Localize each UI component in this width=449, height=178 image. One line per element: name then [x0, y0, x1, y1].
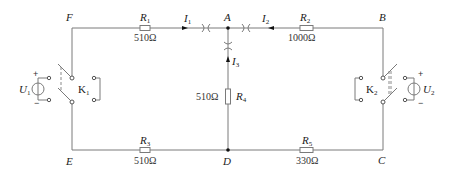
resistor-r2-label: R2	[300, 12, 310, 25]
resistor-r3-label: R3	[140, 135, 150, 148]
source-u1-minus: −	[34, 99, 39, 108]
source-u1-plus: +	[33, 70, 38, 79]
current-i1-label: I1	[184, 13, 191, 26]
switch-k2-label: K2	[366, 84, 377, 97]
resistor-r5	[300, 148, 313, 153]
node-label-c: C	[378, 155, 385, 166]
arrow-i2	[268, 26, 274, 30]
resistor-r5-value: 330Ω	[296, 156, 318, 166]
arrow-i3	[226, 56, 230, 62]
node-label-a: A	[224, 12, 231, 23]
resistor-r2-value: 1000Ω	[288, 33, 315, 43]
source-u2-plus: +	[418, 70, 423, 79]
resistor-r2	[300, 26, 313, 31]
source-u2-label: U2	[423, 84, 434, 97]
node-label-d: D	[223, 156, 231, 167]
current-i3-label: I3	[232, 56, 239, 69]
arrow-i1	[182, 26, 188, 30]
resistor-r3	[140, 148, 150, 153]
resistor-r1-label: R1	[140, 12, 150, 25]
node-label-e: E	[66, 156, 73, 167]
resistor-r5-label: R5	[302, 135, 312, 148]
resistor-r4-label: R4	[236, 91, 246, 104]
circuit-diagram: F A B E D C R1 510Ω R2 1000Ω R3 510Ω R4 …	[0, 0, 449, 178]
node-label-f: F	[66, 12, 73, 23]
current-i2-label: I2	[262, 13, 269, 26]
source-u2-minus: −	[418, 99, 423, 108]
node-label-b: B	[379, 12, 386, 23]
resistor-r1	[140, 26, 150, 31]
resistor-r1-value: 510Ω	[134, 33, 156, 43]
resistor-r3-value: 510Ω	[134, 156, 156, 166]
source-u1-label: U1	[19, 84, 30, 97]
resistor-r4	[226, 89, 231, 104]
circuit-wiring	[0, 0, 449, 178]
junction-d	[226, 148, 230, 152]
switch-k1-label: K1	[78, 84, 89, 97]
resistor-r4-value: 510Ω	[196, 92, 218, 102]
junction-a	[226, 26, 230, 30]
